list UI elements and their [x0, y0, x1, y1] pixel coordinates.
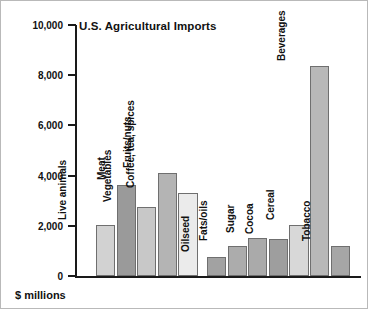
bar-category-label: Coffee, tea, spices: [125, 100, 136, 193]
bar-category-label: Cocoa: [244, 203, 255, 239]
bar-category-label: Oilseed: [180, 216, 191, 257]
y-axis-tick-mark: [68, 124, 76, 126]
y-axis-tick-label: 0: [57, 271, 63, 282]
y-axis-tick-mark: [68, 24, 76, 26]
bar[interactable]: [269, 239, 288, 276]
bar-category-label: Vegetables: [102, 150, 113, 207]
bar-chart-figure: U.S. Agricultural Imports 10,0008,0006,0…: [0, 0, 368, 309]
bar[interactable]: [228, 246, 247, 276]
bar-group: Vegetables: [137, 25, 156, 276]
bar-category-label: Beverages: [275, 10, 286, 66]
bar-category-label: Tobacco: [301, 201, 312, 246]
bar[interactable]: [310, 66, 329, 276]
y-axis-tick-label: 10,000: [32, 20, 63, 31]
y-axis-tick-mark: [68, 225, 76, 227]
bar-group: Oilseed: [207, 25, 226, 276]
bar[interactable]: [331, 246, 350, 276]
bar[interactable]: [207, 257, 226, 276]
bar-category-label: Cereal: [265, 189, 276, 225]
bar-category-label: Live animals: [57, 160, 68, 225]
bar-category-label: Fats/oils: [198, 201, 209, 247]
bar-group: Beverages: [310, 25, 329, 276]
x-axis-line: [75, 276, 361, 278]
bar[interactable]: [248, 238, 267, 276]
bar-group: Tobacco: [331, 25, 350, 276]
y-axis-tick-mark: [68, 175, 76, 177]
bar[interactable]: [158, 173, 177, 276]
plot-area: Live animalsMeatVegetablesFruits/nutsCof…: [77, 25, 361, 276]
bar[interactable]: [96, 225, 115, 276]
y-axis-tick-mark: [68, 74, 76, 76]
y-axis-caption: $ millions: [15, 289, 66, 301]
bar-category-label: Sugar: [225, 205, 236, 238]
y-axis-tick-label: 8,000: [38, 70, 63, 81]
y-axis-tick-mark: [68, 275, 76, 277]
bar-group: Fruits/nuts: [158, 25, 177, 276]
bar[interactable]: [117, 185, 136, 276]
y-axis-tick-label: 6,000: [38, 120, 63, 131]
bar[interactable]: [137, 207, 156, 276]
